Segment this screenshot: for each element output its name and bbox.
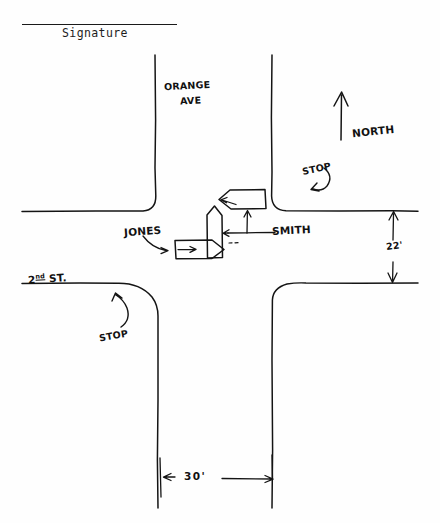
jones-leader-arrow bbox=[143, 236, 168, 254]
smith-up-arrow bbox=[244, 211, 251, 234]
stop-southwest-arrow bbox=[112, 293, 128, 327]
road-edge-nw bbox=[22, 55, 156, 212]
dimension-30-left-tick bbox=[160, 458, 161, 497]
dimension-30-right-arrow bbox=[222, 476, 273, 483]
smith-left-arrow bbox=[223, 230, 229, 237]
intersection-drawing bbox=[0, 0, 440, 523]
vehicle-third bbox=[219, 190, 266, 210]
road-edge-ne bbox=[271, 55, 418, 211]
north-arrow bbox=[334, 92, 348, 140]
street-label-orange-ave-line2: AVE bbox=[180, 94, 202, 106]
dimension-22-upper-arrow bbox=[389, 212, 398, 241]
road-edge-se bbox=[272, 283, 418, 508]
vehicle-smith bbox=[207, 206, 223, 258]
dimension-22-lower-arrow bbox=[388, 262, 397, 283]
dimension-label-30: 30' bbox=[184, 470, 206, 482]
road-edge-sw bbox=[22, 283, 158, 508]
accident-diagram-page: Signature bbox=[0, 0, 440, 523]
dimension-30-right-tick bbox=[272, 455, 273, 479]
dimension-label-22: 22' bbox=[385, 239, 403, 252]
smith-leader-line bbox=[228, 233, 275, 234]
street-label-second-st: 2nd ST. bbox=[28, 271, 68, 286]
vehicle-label-smith: SMITH bbox=[272, 223, 311, 237]
second-st-suffix: ST. bbox=[49, 271, 68, 284]
dimension-30-left-arrow bbox=[164, 474, 176, 481]
vehicle-jones-heading-arrow bbox=[178, 247, 196, 253]
